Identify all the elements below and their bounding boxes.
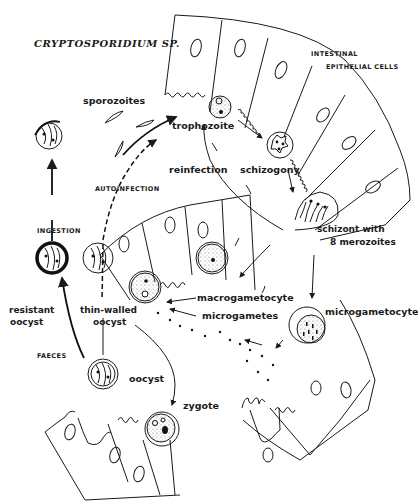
tissue-label-line2: EPITHELIAL CELLS: [326, 63, 399, 71]
tissue-label-line1: INTESTINAL: [311, 50, 358, 58]
middle-epithelium: [100, 195, 255, 300]
lifecycle-arrows: [52, 117, 314, 405]
trophozoite-cell: [209, 96, 231, 118]
label-microgametocyte: microgametocyte: [325, 306, 418, 317]
label-schizont-line1: schizont with: [317, 224, 385, 235]
label-oocyst: oocyst: [129, 373, 164, 384]
label-reinfection: reinfection: [169, 164, 227, 175]
microgamete-particles: [157, 312, 274, 381]
label-schizont-line2: 8 merozoites: [330, 237, 396, 248]
label-sporozoites: sporozoites: [83, 95, 145, 106]
sporozoites-forms: [105, 111, 265, 293]
microgametocyte-cell: [289, 307, 325, 343]
label-thin-walled-line2: oocyst: [93, 317, 126, 328]
label-thin-walled-line1: thin-walled: [80, 305, 137, 316]
label-resistant-line1: resistant: [9, 305, 54, 316]
label-schizogony: schizogony: [240, 164, 300, 175]
label-zygote: zygote: [183, 400, 219, 411]
label-resistant-line2: oocyst: [10, 317, 43, 328]
label-ingestion: INGESTION: [37, 227, 81, 235]
label-trophozoite: trophozoite: [172, 120, 234, 131]
resistant-oocyst-top: [35, 121, 62, 149]
diagram-title: CRYPTOSPORIDIUM SP.: [34, 38, 180, 49]
diagram-artwork: [0, 0, 418, 504]
cryptosporidium-life-cycle-diagram: CRYPTOSPORIDIUM SP. INTESTINAL EPITHELIA…: [0, 0, 418, 504]
schizogony-cell: [267, 132, 293, 158]
resistant-oocyst: [37, 243, 67, 273]
label-faeces: FAECES: [37, 352, 66, 360]
label-autoinfection: AUTOINFECTION: [95, 185, 160, 193]
label-microgametes: microgametes: [202, 310, 278, 321]
thin-walled-oocyst: [83, 243, 113, 273]
oocyst: [88, 359, 118, 389]
label-macrogametocyte: macrogametocyte: [197, 292, 294, 303]
zygote-cell: [145, 412, 179, 446]
